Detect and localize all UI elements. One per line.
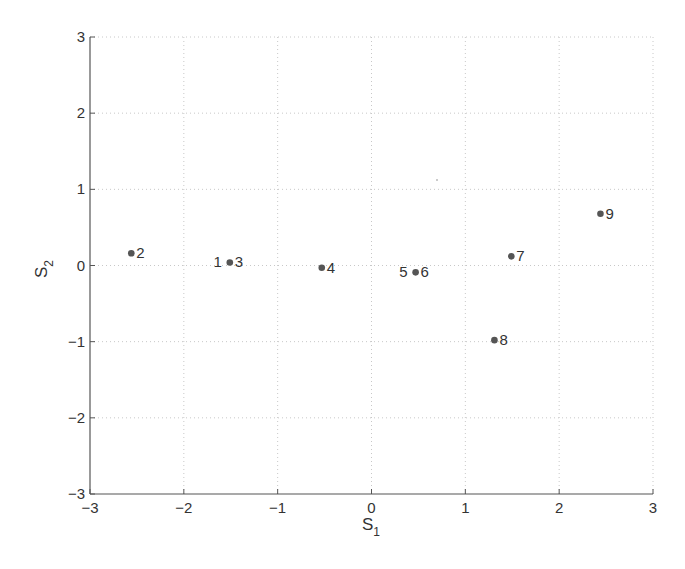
scatter-chart: −3−2−10123 −3−2−10123 123456789 S1 S2 [0, 0, 685, 569]
y-tick-label: −2 [68, 409, 85, 426]
data-point-marker [128, 250, 135, 257]
data-point-marker [318, 264, 325, 271]
y-tick-label: 1 [77, 180, 85, 197]
grid-lines [90, 37, 653, 494]
data-point-label: 2 [136, 244, 144, 261]
x-tick-label: 2 [555, 499, 563, 516]
y-axis-label: S2 [32, 260, 56, 278]
stray-speck [436, 179, 438, 181]
x-axis-ticks: −3−2−10123 [81, 489, 657, 516]
data-point-label: 8 [499, 331, 507, 348]
data-point-label: 1 [213, 253, 221, 270]
data-point-marker [227, 259, 234, 266]
data-point-marker [508, 253, 515, 260]
y-tick-label: −1 [68, 333, 85, 350]
data-point-label: 9 [605, 205, 613, 222]
data-points: 123456789 [128, 205, 614, 348]
y-tick-label: 2 [77, 104, 85, 121]
data-point-label: 6 [421, 263, 429, 280]
y-tick-label: 3 [77, 28, 85, 45]
x-tick-label: −1 [269, 499, 286, 516]
data-point-label: 4 [327, 259, 335, 276]
y-tick-label: −3 [68, 485, 85, 502]
data-point-label: 5 [399, 263, 407, 280]
data-point-marker [412, 269, 419, 276]
x-tick-label: −2 [175, 499, 192, 516]
x-tick-label: 3 [649, 499, 657, 516]
data-point-marker [597, 210, 604, 217]
data-point-marker [491, 337, 498, 344]
y-axis-ticks: −3−2−10123 [68, 28, 95, 502]
x-axis-label: S1 [362, 515, 380, 539]
data-point-label: 7 [516, 247, 524, 264]
x-tick-label: 1 [461, 499, 469, 516]
y-tick-label: 0 [77, 257, 85, 274]
data-point-label: 3 [235, 253, 243, 270]
x-tick-label: 0 [367, 499, 375, 516]
